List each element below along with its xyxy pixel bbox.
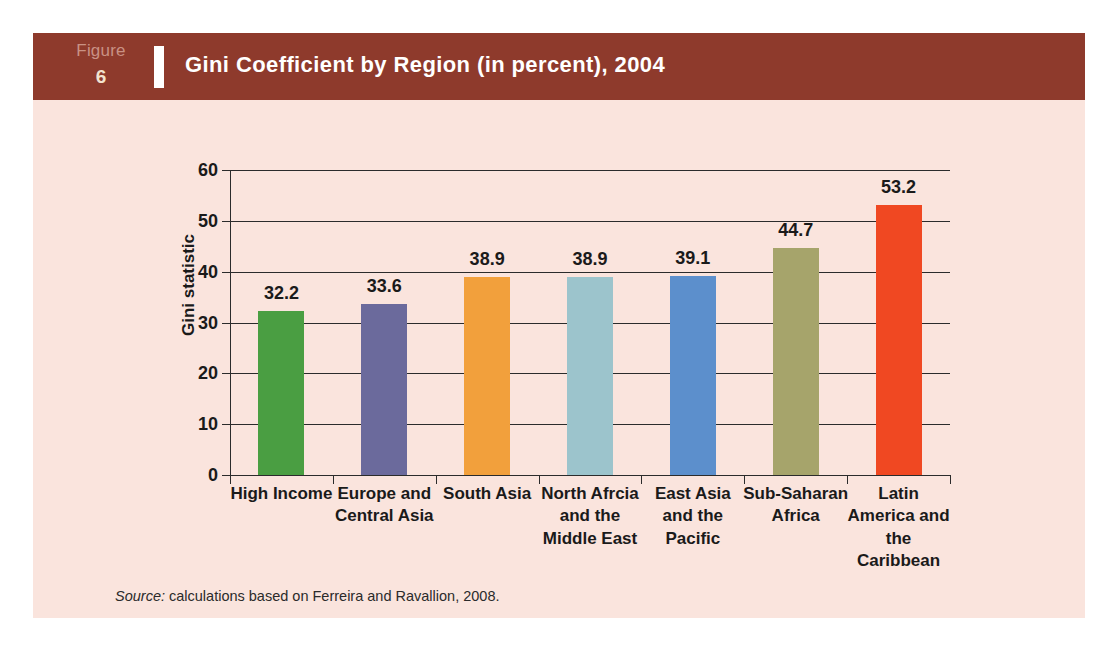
y-tick-label: 50 (198, 210, 218, 231)
figure-header-band: Figure 6 Gini Coefficient by Region (in … (33, 33, 1085, 100)
y-tick-label: 20 (198, 363, 218, 384)
x-tick-label-line: Sub-Saharan (743, 484, 848, 503)
y-tick-mark (222, 221, 230, 222)
x-tick-label: High Income (227, 483, 336, 505)
page-title: Gini Coefficient by Region (in percent),… (185, 52, 665, 78)
bar[interactable] (567, 277, 613, 475)
source-note: Source: calculations based on Ferreira a… (115, 588, 500, 604)
bar-value-label: 33.6 (367, 276, 402, 297)
x-tick-label: East Asiaand thePacific (638, 483, 747, 550)
bar-chart: Gini statistic 010203040506032.2High Inc… (33, 100, 1085, 618)
x-axis-line (230, 475, 950, 476)
gridline (230, 272, 950, 273)
x-tick-label-line: South Asia (443, 484, 531, 503)
x-tick-label-line: Africa (772, 506, 820, 525)
source-note-text: calculations based on Ferreira and Raval… (165, 588, 500, 604)
x-tick-label-line: Caribbean (857, 551, 940, 570)
y-tick-mark (222, 323, 230, 324)
gridline (230, 221, 950, 222)
y-tick-label: 30 (198, 312, 218, 333)
x-tick-label-line: Central Asia (335, 506, 434, 525)
x-tick-label-line: the (886, 529, 912, 548)
y-tick-mark (222, 475, 230, 476)
y-tick-label: 10 (198, 414, 218, 435)
bar[interactable] (876, 205, 922, 475)
bar[interactable] (670, 276, 716, 475)
y-tick-label: 40 (198, 261, 218, 282)
x-tick-label-line: Europe and (338, 484, 432, 503)
y-tick-label: 60 (198, 160, 218, 181)
x-tick-label: LatinAmerica andtheCaribbean (844, 483, 953, 573)
source-note-lead: Source: (115, 588, 165, 604)
bar[interactable] (773, 248, 819, 475)
bar-value-label: 38.9 (470, 249, 505, 270)
x-tick-label-line: North Afrcia (541, 484, 639, 503)
y-tick-mark (222, 170, 230, 171)
x-tick-label-line: and the (560, 506, 620, 525)
gridline (230, 170, 950, 171)
x-tick-label-line: East Asia (655, 484, 731, 503)
x-tick-label-line: Middle East (543, 529, 637, 548)
figure-panel: Figure 6 Gini Coefficient by Region (in … (33, 33, 1085, 618)
x-tick-label-line: America and (848, 506, 950, 525)
plot-area: 010203040506032.2High Income33.6Europe a… (230, 170, 950, 475)
bar-value-label: 44.7 (778, 220, 813, 241)
bar-value-label: 32.2 (264, 283, 299, 304)
y-tick-mark (222, 272, 230, 273)
bar[interactable] (361, 304, 407, 475)
figure-kicker-label: Figure (61, 41, 141, 61)
x-tick-label: Europe andCentral Asia (330, 483, 439, 528)
bar[interactable] (464, 277, 510, 475)
header-divider-bar (154, 46, 164, 88)
x-tick-label-line: High Income (230, 484, 332, 503)
bar[interactable] (258, 311, 304, 475)
x-tick-label-line: and the (663, 506, 723, 525)
x-tick-label-line: Latin (878, 484, 919, 503)
x-tick-label: North Afrciaand theMiddle East (536, 483, 645, 550)
y-tick-mark (222, 424, 230, 425)
bar-value-label: 38.9 (572, 249, 607, 270)
y-tick-mark (222, 373, 230, 374)
y-axis-title: Gini statistic (179, 234, 199, 336)
x-tick-label: South Asia (433, 483, 542, 505)
bar-value-label: 39.1 (675, 248, 710, 269)
figure-number-label: 6 (61, 66, 141, 88)
x-tick-label: Sub-SaharanAfrica (741, 483, 850, 528)
y-tick-label: 0 (208, 465, 218, 486)
x-tick-label-line: Pacific (665, 529, 720, 548)
bar-value-label: 53.2 (881, 177, 916, 198)
